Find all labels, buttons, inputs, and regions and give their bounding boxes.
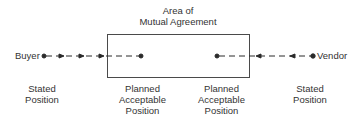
buyer-stated-label: Stated Position xyxy=(22,83,62,105)
label-line: Position xyxy=(290,94,330,105)
arrowhead-left xyxy=(290,54,295,58)
area-title-line1: Area of xyxy=(128,5,228,16)
buyer-arrow-line xyxy=(42,54,143,58)
arrowhead-right xyxy=(99,54,104,58)
label-line: Position xyxy=(194,105,249,116)
arrowhead-right xyxy=(79,54,84,58)
arrowhead-right xyxy=(59,54,64,58)
vendor-label: Vendor xyxy=(317,50,347,61)
vendor-arrow-line xyxy=(215,54,315,58)
label-line: Position xyxy=(115,105,170,116)
buyer-label: Buyer xyxy=(15,50,40,61)
vendor-stated-point xyxy=(311,54,315,58)
vendor-planned-label: Planned Acceptable Position xyxy=(194,83,249,116)
buyer-stated-point xyxy=(42,54,46,58)
label-line: Position xyxy=(22,94,62,105)
label-line: Acceptable xyxy=(194,94,249,105)
label-line: Planned xyxy=(115,83,170,94)
label-line: Acceptable xyxy=(115,94,170,105)
buyer-planned-label: Planned Acceptable Position xyxy=(115,83,170,116)
label-line: Stated xyxy=(22,83,62,94)
arrowhead-left xyxy=(256,54,261,58)
vendor-stated-label: Stated Position xyxy=(290,83,330,105)
vendor-planned-point xyxy=(215,54,219,58)
area-title: Area of Mutual Agreement xyxy=(128,5,228,27)
label-line: Planned xyxy=(194,83,249,94)
buyer-planned-point xyxy=(139,54,143,58)
area-title-line2: Mutual Agreement xyxy=(128,16,228,27)
label-line: Stated xyxy=(290,83,330,94)
